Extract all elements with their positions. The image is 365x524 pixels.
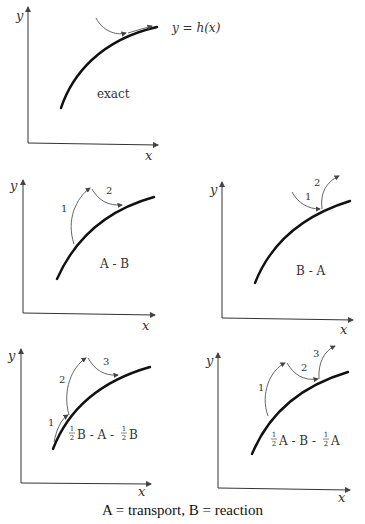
step-number: 2: [59, 374, 65, 385]
x-axis-label: x: [145, 148, 153, 163]
x-axis-label: x: [142, 318, 150, 333]
panel-b-a: y x 1 2 B - A: [209, 176, 353, 337]
panel-label: exact: [97, 87, 130, 101]
step-number: 3: [103, 356, 109, 367]
figure-caption: A = transport, B = reaction: [0, 502, 365, 519]
x-axis-label: x: [138, 484, 146, 499]
y-axis-label: y: [9, 178, 18, 193]
y-axis-label: y: [15, 8, 24, 23]
svg-text:A: A: [330, 434, 340, 448]
step-arrow-1: [54, 415, 68, 442]
x-axis: [21, 483, 151, 484]
step-number: 1: [305, 191, 311, 202]
svg-text:1: 1: [70, 425, 74, 433]
panel-halfb-a-halfb: y x 1 2 3 1 2 B - A - 1 2 B: [7, 348, 151, 499]
x-axis-label: x: [340, 322, 348, 337]
panel-halfa-b-halfa: y x 1 2 3 1 2 A - B - 1 2 A: [205, 346, 350, 505]
x-axis: [222, 318, 353, 320]
y-axis-label: y: [205, 353, 214, 368]
panel-label: 1 2 B - A - 1 2 B: [69, 425, 138, 442]
step-number: 2: [106, 185, 112, 196]
svg-text:B - A -: B - A -: [77, 428, 114, 442]
step-number: 1: [48, 417, 54, 428]
svg-text:A - B -: A - B -: [278, 434, 316, 448]
svg-text:2: 2: [70, 434, 74, 442]
panel-a-b: y x 1 2 A - B: [9, 178, 155, 333]
step-arrow-3: [319, 346, 335, 379]
svg-text:1: 1: [272, 431, 276, 439]
step-number: 1: [61, 203, 67, 214]
panel-exact: y x y = h(x) exact: [15, 7, 221, 163]
step-arrow-2: [67, 358, 86, 415]
panel-label: 1 2 A - B - 1 2 A: [271, 431, 340, 448]
svg-text:2: 2: [324, 440, 328, 448]
svg-text:B: B: [129, 428, 138, 442]
step-arrow: [96, 18, 126, 34]
step-arrow-2: [322, 176, 339, 209]
svg-text:1: 1: [122, 425, 126, 433]
x-axis: [28, 143, 158, 145]
y-axis-label: y: [7, 348, 16, 363]
x-axis: [23, 313, 155, 315]
panel-label: A - B: [99, 257, 129, 271]
svg-text:2: 2: [122, 434, 126, 442]
svg-text:1: 1: [324, 431, 328, 439]
curve-label: y = h(x): [171, 21, 221, 35]
svg-text:2: 2: [272, 440, 276, 448]
panel-label: B - A: [296, 264, 326, 278]
y-axis-label: y: [209, 182, 218, 197]
x-axis: [218, 488, 350, 490]
step-number: 3: [313, 348, 319, 359]
step-number: 1: [258, 382, 264, 393]
step-number: 2: [314, 177, 320, 188]
step-number: 2: [301, 362, 307, 373]
